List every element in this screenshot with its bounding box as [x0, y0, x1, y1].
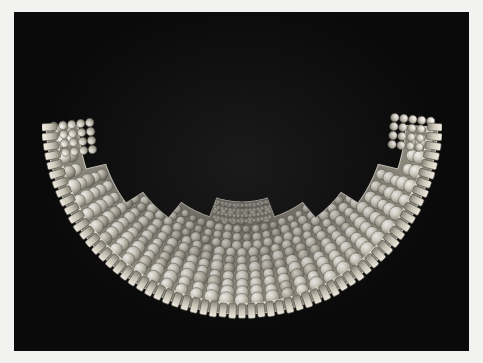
collar-bead-fine [256, 207, 260, 211]
collar-bead [260, 223, 269, 232]
collar-bead-fine [240, 219, 244, 223]
bead-field [53, 119, 431, 308]
collar-bead [201, 235, 210, 244]
collar-bead [233, 225, 241, 233]
collar-bead [302, 204, 310, 212]
collar-bead-fine [248, 203, 252, 207]
collar-bead [86, 127, 95, 136]
collar-bead-fine [260, 206, 264, 210]
collar-bead [88, 145, 97, 154]
collar-bead [389, 122, 398, 131]
collar-bead-fine [220, 206, 224, 210]
collar-bead-fine [220, 201, 224, 205]
collar-bead [85, 118, 94, 127]
collar-bead [263, 237, 273, 247]
image-alt-text: Photograph of a wide crescent-shaped col… [14, 12, 15, 13]
photo-black-field: Photograph of a wide crescent-shaped col… [14, 12, 469, 351]
collar-bead-fine [232, 218, 236, 222]
collar-bead-fine [216, 205, 220, 209]
collar-bead-fine [260, 217, 264, 221]
collar-edge-tab [426, 132, 442, 141]
collar-bead-fine [264, 211, 268, 215]
collar-bead-fine [248, 218, 252, 222]
collar-bead-fine [228, 208, 232, 212]
collar-bead [293, 227, 303, 237]
collar-bead [213, 230, 221, 238]
collar-bead-fine [220, 212, 224, 216]
collar-edge-tab [257, 303, 266, 318]
collar-bead [399, 114, 408, 123]
collar-bead [388, 131, 397, 140]
collar-bead [242, 225, 250, 233]
collar-bead [212, 238, 221, 247]
collar-bead-fine [228, 218, 232, 222]
collar-bead [252, 225, 260, 233]
collar-bead-fine [236, 208, 240, 212]
collar-bead-fine [252, 218, 256, 222]
collar-bead-fine [232, 203, 236, 207]
collar-bead-fine [224, 212, 228, 216]
collar-bead [408, 115, 417, 124]
collar-bead-fine [232, 213, 236, 217]
collar-bead-fine [212, 210, 216, 214]
collar-bead-fine [236, 214, 240, 218]
collar-bead [181, 210, 189, 218]
collar-bead-fine [236, 219, 240, 223]
collar-edge-tab [219, 303, 228, 318]
collar-bead-fine [236, 203, 240, 207]
collar-bead [387, 140, 396, 149]
collar-bead-fine [244, 219, 248, 223]
collar-bead-fine [252, 202, 256, 206]
collar-edge-tab [42, 123, 57, 131]
collar-edge-tab [238, 304, 245, 319]
collar-bead-fine [244, 208, 248, 212]
collar-bead-fine [240, 214, 244, 218]
collar-bead-fine [264, 205, 268, 209]
collar-bead [390, 113, 399, 122]
collar-bead-fine [256, 212, 260, 216]
collar-edge-tab [247, 303, 255, 318]
collar-bead-fine [260, 212, 264, 216]
screenshot-root: Photograph of a wide crescent-shaped col… [0, 0, 483, 363]
collar-bead-fine [212, 215, 216, 219]
collar-bead-fine [232, 208, 236, 212]
collar-bead-fine [228, 202, 232, 206]
collar-bead [417, 116, 426, 125]
collar-bead-fine [252, 208, 256, 212]
collar-bead-fine [216, 211, 220, 215]
collar-bead-fine [252, 213, 256, 217]
collar-bead-fine [216, 216, 220, 220]
collar-edge-tab [228, 303, 236, 318]
collar-edge-tab [42, 132, 58, 141]
collar-bead-fine [248, 208, 252, 212]
collar-bead-fine [268, 215, 272, 219]
collar-bead [87, 136, 96, 145]
collar-edge-tab [427, 123, 442, 131]
collar-bead-fine [216, 200, 220, 204]
collar-bead-fine [256, 218, 260, 222]
collar-bead-fine [224, 218, 228, 222]
beaded-collar-artifact [42, 26, 442, 336]
collar-bead-fine [264, 200, 268, 204]
photo-mat: Photograph of a wide crescent-shaped col… [0, 0, 483, 363]
collar-bead-fine [248, 213, 252, 217]
collar-bead-fine [240, 203, 244, 207]
collar-bead-fine [224, 202, 228, 206]
collar-bead-fine [220, 217, 224, 221]
collar-bead [206, 220, 215, 229]
collar-bead-fine [240, 208, 244, 212]
collar-bead-fine [224, 207, 228, 211]
collar-bead-fine [228, 213, 232, 217]
collar-bead-fine [260, 201, 264, 205]
collar-bead-fine [244, 203, 248, 207]
collar-bead-fine [268, 210, 272, 214]
collar-bead-fine [264, 216, 268, 220]
collar-bead-fine [244, 214, 248, 218]
collar-drawing [42, 26, 442, 336]
collar-bead-fine [256, 202, 260, 206]
